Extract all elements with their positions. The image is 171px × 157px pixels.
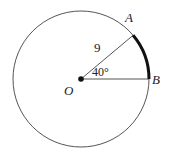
label-angle: 40° <box>92 65 109 79</box>
circle-diagram: A B O 9 40° <box>0 0 171 157</box>
label-a: A <box>124 10 133 25</box>
label-o: O <box>64 83 74 98</box>
label-radius: 9 <box>94 40 101 55</box>
center-point <box>78 76 84 82</box>
label-b: B <box>152 72 160 87</box>
highlighted-arc-ab <box>133 35 149 79</box>
